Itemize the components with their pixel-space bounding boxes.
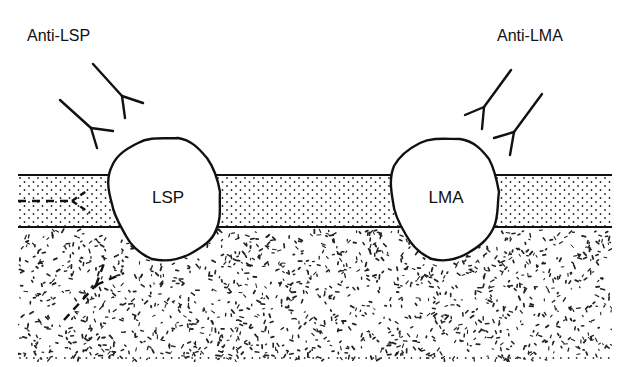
- anti-lsp-antibody-1: [93, 64, 143, 118]
- lsp-antigen: LSP: [108, 138, 220, 260]
- anti-lma-label: Anti-LMA: [497, 27, 563, 44]
- lma-label: LMA: [429, 188, 465, 207]
- anti-lsp-antibody-2: [60, 100, 113, 148]
- anti-lma-antibody-1: [465, 70, 511, 129]
- lsp-label: LSP: [152, 188, 184, 207]
- anti-lma-antibody-2: [494, 94, 542, 155]
- anti-lsp-label: Anti-LSP: [27, 27, 90, 44]
- matrix-speckle-region: [18, 229, 613, 363]
- antigen-antibody-diagram: LSP LMA Anti-LSP Anti-LMA: [0, 0, 628, 367]
